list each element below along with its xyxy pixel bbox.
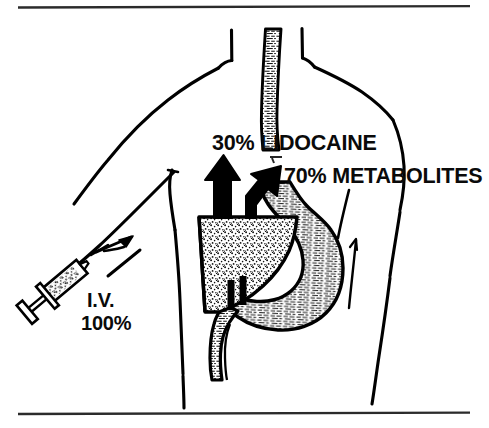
- label-leader-ticks: [270, 157, 282, 163]
- label-iv-route: I.V.: [87, 290, 114, 310]
- lidocaine-output-arrow[interactable]: [205, 155, 240, 218]
- medical-illustration-figure: 30% LIDOCAINE 70% METABOLITES I.V. 100%: [0, 0, 489, 428]
- label-metabolites: 70% METABOLITES: [284, 166, 483, 188]
- illustration-canvas: [0, 0, 489, 428]
- bottom-rule: [18, 413, 470, 414]
- top-rule: [18, 6, 470, 7]
- label-iv-dose: 100%: [81, 313, 131, 333]
- duodenum: [210, 305, 238, 380]
- label-lidocaine: 30% LIDOCAINE: [212, 133, 377, 155]
